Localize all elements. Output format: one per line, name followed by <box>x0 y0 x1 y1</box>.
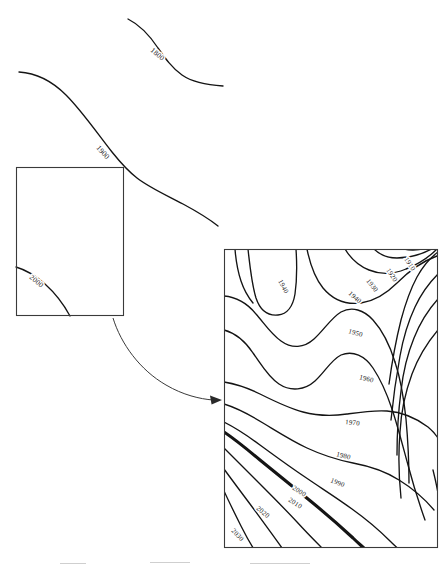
contour-line-2000 <box>16 267 70 316</box>
inset-contours <box>224 240 439 554</box>
contour-label-1960: 1960 <box>359 373 375 383</box>
inset-panel <box>224 240 439 554</box>
contour-line-1960-right <box>392 409 425 520</box>
contour-line-1960 <box>224 330 392 409</box>
contour-label-1990: 1990 <box>330 476 346 488</box>
contour-label-1970: 1970 <box>345 418 361 427</box>
contour-label-2020: 2020 <box>255 504 271 519</box>
contour-line-1940-hairpin <box>248 249 297 315</box>
contour-labels: 1800 1800 1900 1900 2000 2000 1910 1910 … <box>28 46 417 543</box>
contour-line-1910 <box>404 240 439 250</box>
contour-line-1990 <box>224 422 399 549</box>
contour-line-upper-left-arc <box>235 249 253 303</box>
detail-region-rectangle[interactable] <box>17 168 124 316</box>
contour-line-right-1920 <box>391 274 438 420</box>
contour-label-1950: 1950 <box>348 327 364 338</box>
contour-label-1900: 1900 <box>95 143 112 161</box>
contour-label-1940-left: 1940 <box>277 278 290 294</box>
contour-line-2030 <box>224 491 257 554</box>
leader-arrow-head <box>210 396 222 405</box>
scan-artifacts <box>60 562 310 564</box>
contour-label-1800: 1800 <box>149 46 167 63</box>
contour-line-right-1930 <box>397 299 438 455</box>
zoom-leader-arrow <box>113 318 222 404</box>
contour-line-1900 <box>19 72 218 226</box>
leader-arrow-curve <box>113 318 213 400</box>
contour-line-lower-right-extra <box>433 470 439 500</box>
contour-label-1920: 1920 <box>385 267 399 283</box>
contour-line-1920 <box>374 246 437 258</box>
inset-frame-rectangle[interactable] <box>225 250 438 548</box>
contour-line-1950 <box>224 296 395 362</box>
contour-label-2010: 2010 <box>287 496 303 510</box>
contour-figure: 1800 1800 1900 1900 2000 2000 1910 1910 … <box>0 0 447 567</box>
contour-canvas: 1800 1800 1900 1900 2000 2000 1910 1910 … <box>0 0 447 567</box>
contour-line-1800 <box>128 19 223 86</box>
contour-label-1930: 1930 <box>365 277 380 293</box>
contour-label-2000: 2000 <box>28 273 46 290</box>
